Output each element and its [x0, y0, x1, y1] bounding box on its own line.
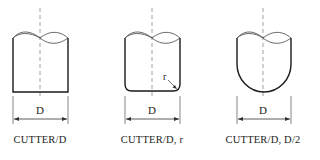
dimension-label-d: D	[259, 104, 267, 116]
flat-cutter-caption: CUTTER/D	[14, 134, 67, 145]
dimension-label-d: D	[36, 104, 44, 116]
ball-nose-cutter-caption: CUTTER/D, D/2	[226, 134, 301, 145]
bull-nose-cutter-caption: CUTTER/D, r	[121, 134, 183, 145]
dimension-label-d: D	[148, 104, 156, 116]
radius-label: r	[163, 71, 166, 82]
